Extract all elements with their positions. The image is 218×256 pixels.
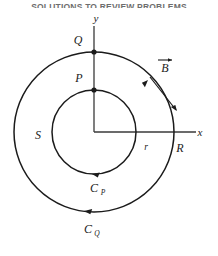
- y-axis-label: y: [93, 12, 99, 24]
- inner-radius-label: r: [144, 142, 148, 152]
- outer-circle-arrowhead-upper: [141, 78, 150, 87]
- contour-CP-subscript: P: [100, 188, 106, 197]
- point-Q-label: Q: [74, 33, 83, 47]
- point-P-marker: [91, 87, 96, 92]
- outer-radius-label: R: [175, 141, 184, 155]
- contour-CQ-label-group: C Q: [84, 222, 100, 238]
- surface-S-label: S: [35, 128, 41, 142]
- magnetic-field-label-group: B: [158, 58, 172, 75]
- diagram-canvas: y x Q P S r R B C P C Q: [0, 0, 218, 256]
- point-P-label: P: [74, 71, 83, 85]
- physics-figure: SOLUTIONS TO REVIEW PROBLEMS y x Q: [0, 0, 218, 256]
- contour-CQ-label: C: [84, 222, 93, 236]
- contour-CP-label-group: C P: [90, 181, 106, 197]
- magnetic-field-arrow: [150, 77, 179, 112]
- contour-CP-label: C: [90, 181, 99, 195]
- outer-circle-arrowhead-bottom: [84, 208, 92, 214]
- point-Q-marker: [91, 49, 96, 54]
- x-axis-label: x: [197, 126, 203, 138]
- magnetic-field-label: B: [161, 61, 169, 75]
- contour-CQ-subscript: Q: [94, 229, 100, 238]
